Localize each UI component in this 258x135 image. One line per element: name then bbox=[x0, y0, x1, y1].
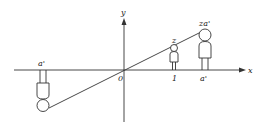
large-figure-head bbox=[199, 29, 211, 41]
large-figure-body bbox=[199, 42, 211, 59]
small-figure-bottom-label: 1 bbox=[172, 74, 177, 83]
x-axis-label: x bbox=[248, 66, 253, 75]
projection-line bbox=[49, 31, 203, 108]
diagram-canvas: x y 0 z 1 za' a' a' bbox=[0, 0, 258, 135]
y-axis-label: y bbox=[120, 8, 126, 17]
inverted-figure: a' bbox=[37, 59, 49, 112]
small-figure-head bbox=[171, 45, 178, 52]
small-figure-body bbox=[170, 52, 178, 63]
small-figure-top-label: z bbox=[171, 36, 177, 45]
x-axis: x bbox=[14, 66, 253, 75]
large-figure-bottom-label: a' bbox=[200, 74, 207, 83]
large-figure: za' a' bbox=[198, 19, 211, 83]
y-axis-arrow-icon bbox=[122, 18, 127, 25]
inverted-figure-head bbox=[37, 100, 49, 112]
small-figure: z 1 bbox=[170, 36, 178, 83]
y-axis: y bbox=[120, 8, 127, 122]
large-figure-top-label: za' bbox=[198, 19, 210, 28]
origin-label: 0 bbox=[118, 74, 123, 83]
x-axis-arrow-icon bbox=[239, 68, 246, 73]
inverted-figure-top-label: a' bbox=[38, 59, 45, 68]
inverted-figure-body bbox=[37, 83, 49, 99]
